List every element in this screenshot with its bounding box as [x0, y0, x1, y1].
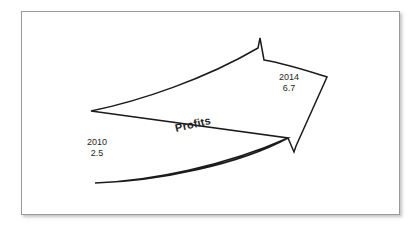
- end-point-label: 2014 6.7: [265, 72, 313, 95]
- start-value: 2.5: [73, 148, 121, 159]
- diagram-canvas: 2010 2.5 2014 6.7 Profits: [0, 0, 419, 231]
- start-year: 2010: [73, 137, 121, 148]
- end-year: 2014: [265, 72, 313, 83]
- start-point-label: 2010 2.5: [73, 137, 121, 160]
- end-value: 6.7: [265, 83, 313, 94]
